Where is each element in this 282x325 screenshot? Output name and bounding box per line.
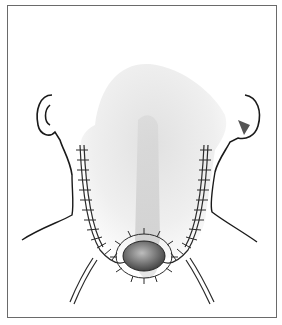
left-ear	[37, 95, 72, 175]
surgical-illustration	[0, 0, 282, 325]
